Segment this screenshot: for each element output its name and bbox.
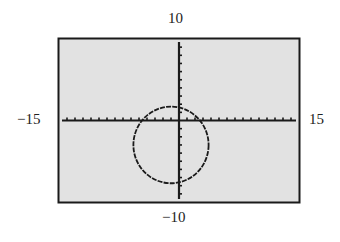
calculator-graph-screen [0,0,340,242]
